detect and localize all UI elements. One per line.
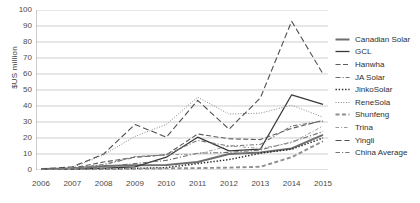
legend-label: China Average xyxy=(355,148,407,157)
series-lines xyxy=(41,21,323,169)
line-chart: $US million 0102030405060708090100 20062… xyxy=(0,0,420,203)
legend-item-renesola[interactable]: ReneSola xyxy=(335,96,420,109)
y-axis-tick-label: 90 xyxy=(10,22,32,30)
x-axis-tick-label: 2007 xyxy=(55,179,89,188)
legend-item-hanwha[interactable]: Hanwha xyxy=(335,58,420,71)
gridlines xyxy=(36,10,328,170)
legend-label: ReneSola xyxy=(355,98,390,107)
y-axis-tick-label: 60 xyxy=(10,70,32,78)
x-axis-tick-label: 2011 xyxy=(181,179,215,188)
y-axis-tick-label: 80 xyxy=(10,38,32,46)
legend-item-ja-solar[interactable]: JA Solar xyxy=(335,71,420,84)
legend-swatch-icon xyxy=(335,73,350,82)
x-axis-tick-label: 2015 xyxy=(306,179,340,188)
series-line-renesola xyxy=(41,97,323,169)
legend-swatch-icon xyxy=(335,110,350,119)
y-axis-tick-label: 10 xyxy=(10,150,32,158)
legend-swatch-icon xyxy=(335,60,350,69)
legend-label: GCL xyxy=(355,47,371,56)
legend-swatch-icon xyxy=(335,47,350,56)
legend-swatch-icon xyxy=(335,148,350,157)
y-axis-tick-label: 50 xyxy=(10,86,32,94)
legend-swatch-icon xyxy=(335,35,350,44)
y-axis-tick-label: 20 xyxy=(10,134,32,142)
x-axis-tick-label: 2006 xyxy=(24,179,58,188)
x-axis-tick-label: 2012 xyxy=(212,179,246,188)
legend-label: JA Solar xyxy=(355,73,385,82)
legend-swatch-icon xyxy=(335,98,350,107)
y-axis-tick-label: 40 xyxy=(10,102,32,110)
x-axis-tick-label: 2008 xyxy=(87,179,121,188)
y-axis-tick-label: 100 xyxy=(10,6,32,14)
legend-item-gcl[interactable]: GCL xyxy=(335,46,420,59)
legend-item-shunfeng[interactable]: Shunfeng xyxy=(335,109,420,122)
legend-swatch-icon xyxy=(335,136,350,145)
y-axis-tick-label: 70 xyxy=(10,54,32,62)
legend-label: Yingli xyxy=(355,136,374,145)
x-axis-tick-label: 2010 xyxy=(149,179,183,188)
legend-label: JinkoSolar xyxy=(355,85,392,94)
x-axis-tick-labels: 2006200720082009201020112012201320142015 xyxy=(0,173,420,189)
series-line-canadian-solar xyxy=(41,135,323,169)
legend-label: Trina xyxy=(355,123,373,132)
legend-item-canadian-solar[interactable]: Canadian Solar xyxy=(335,33,420,46)
legend-swatch-icon xyxy=(335,123,350,132)
legend-label: Hanwha xyxy=(355,60,384,69)
plot-svg xyxy=(36,10,328,170)
legend-label: Shunfeng xyxy=(355,110,389,119)
legend-item-china-average[interactable]: China Average xyxy=(335,146,420,159)
x-axis-tick-label: 2009 xyxy=(118,179,152,188)
chart-legend: Canadian SolarGCLHanwhaJA SolarJinkoSola… xyxy=(335,33,420,159)
plot-area xyxy=(36,10,328,170)
legend-swatch-icon xyxy=(335,85,350,94)
legend-item-yingli[interactable]: Yingli xyxy=(335,134,420,147)
legend-label: Canadian Solar xyxy=(355,35,410,44)
y-axis-tick-label: 30 xyxy=(10,118,32,126)
series-line-china-average xyxy=(41,121,323,169)
legend-item-jinkosolar[interactable]: JinkoSolar xyxy=(335,83,420,96)
x-axis-tick-label: 2013 xyxy=(243,179,277,188)
legend-item-trina[interactable]: Trina xyxy=(335,121,420,134)
x-axis-tick-label: 2014 xyxy=(275,179,309,188)
